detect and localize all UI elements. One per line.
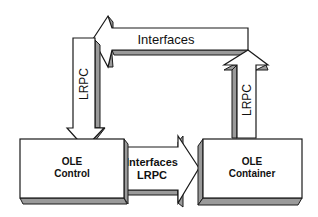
ole-control-line1: OLE [62,156,83,167]
middle-arrow-label-line2: LRPC [137,169,167,181]
ole-container-line1: OLE [242,156,263,167]
middle-arrow-label-line1: Interfaces [126,156,178,168]
top-arrow-label: Interfaces [137,32,195,47]
ole-control-line2: Control [54,168,90,179]
ole-container-line2: Container [229,168,276,179]
left-arrow-label: LRPC [77,68,91,100]
ole-diagram: Interfaces LRPC LRPC Interfaces LRPC OLE… [0,0,318,217]
right-arrow-label: LRPC [240,84,254,116]
